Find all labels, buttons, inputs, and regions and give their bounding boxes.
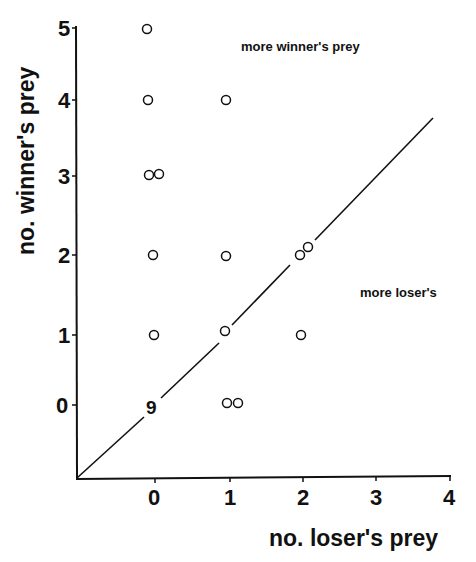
x-axis-line (76, 476, 451, 479)
annotation-more-winners-prey: more winner's prey (241, 39, 360, 54)
x-tick-label-2: 2 (297, 485, 309, 510)
x-tick-label-1: 1 (224, 485, 236, 510)
scatter-chart: 5 4 3 2 1 0 0 1 2 3 4 no. loser's prey n… (0, 0, 476, 562)
x-tick-label-4: 4 (443, 485, 456, 510)
data-point (222, 96, 231, 105)
y-tick-label-4: 4 (58, 88, 71, 113)
y-tick-label-2: 2 (58, 243, 70, 268)
y-tick-label-1: 1 (58, 323, 70, 348)
data-point (155, 170, 164, 179)
data-point (297, 331, 306, 340)
x-tick-label-0: 0 (148, 485, 160, 510)
data-point (222, 252, 231, 261)
data-points (143, 25, 313, 408)
y-tick-label-0: 0 (56, 393, 68, 418)
data-point (149, 251, 158, 260)
y-axis-line (76, 26, 77, 479)
y-axis-title: no. winner's prey (13, 67, 39, 255)
y-tick-label-3: 3 (58, 164, 70, 189)
data-point (150, 331, 159, 340)
y-tick-label-5: 5 (58, 16, 70, 41)
origin-count-label: 9 (146, 397, 157, 418)
x-tick-label-3: 3 (370, 485, 382, 510)
data-point (234, 399, 243, 408)
x-axis-title: no. loser's prey (269, 525, 438, 551)
annotation-more-losers: more loser's (360, 285, 437, 300)
data-point (145, 171, 154, 180)
data-point (221, 327, 230, 336)
data-point (304, 243, 313, 252)
data-point (143, 25, 152, 34)
data-point (296, 251, 305, 260)
data-point (144, 96, 153, 105)
data-point (223, 399, 232, 408)
